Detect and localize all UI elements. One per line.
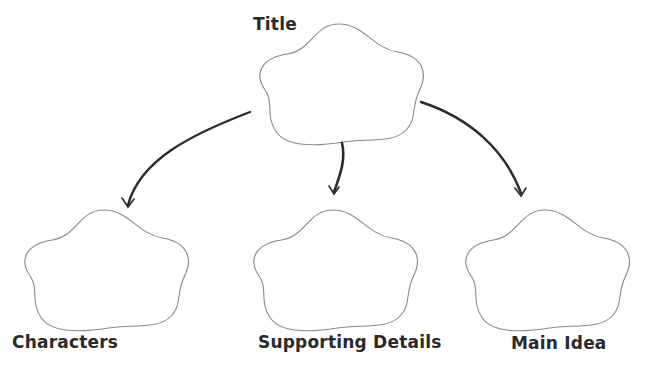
- characters-cloud: [25, 210, 189, 331]
- arrow-to-supporting: [334, 143, 343, 192]
- diagram-shapes: [0, 0, 651, 365]
- supporting-details-label: Supporting Details: [258, 332, 442, 352]
- arrow-to-main: [421, 102, 521, 193]
- characters-label: Characters: [12, 332, 118, 352]
- title-cloud: [260, 24, 424, 145]
- diagram-canvas: Title Characters Supporting Details Main…: [0, 0, 651, 365]
- main-cloud: [466, 210, 630, 331]
- main-idea-label: Main Idea: [511, 333, 607, 353]
- supporting-cloud: [254, 210, 418, 331]
- title-label: Title: [253, 14, 297, 34]
- arrow-to-characters: [128, 112, 250, 205]
